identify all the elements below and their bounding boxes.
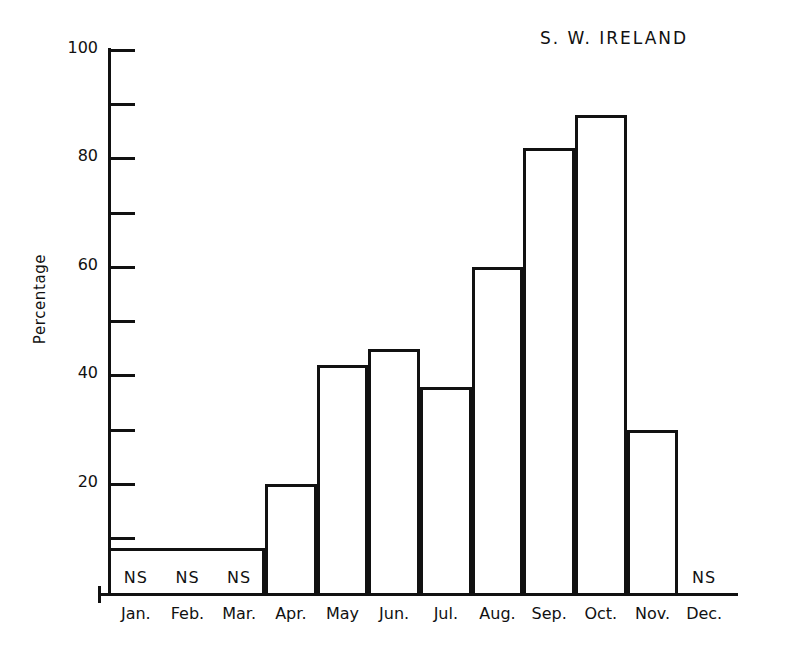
plot-area: 100 80 60 40 20 NS NS NS [110,50,730,593]
bar-apr[interactable] [265,484,317,593]
bar-may[interactable] [317,365,369,593]
x-tick-label-may: May [317,604,369,623]
y-tick-label-100: 100 [67,38,98,57]
x-tick-label-jul: Jul. [420,604,472,623]
x-axis-tick-labels: Jan. Feb. Mar. Apr. May Jun. Jul. Aug. S… [110,604,730,634]
bar-chart-figure: S. W. IRELAND Percentage 100 80 60 40 20 [0,0,792,662]
x-tick-label-nov: Nov. [627,604,679,623]
x-tick-label-aug: Aug. [472,604,524,623]
x-tick-label-feb: Feb. [162,604,214,623]
x-tick-label-apr: Apr. [265,604,317,623]
bar-aug[interactable] [472,267,524,593]
x-tick-label-dec: Dec. [678,604,730,623]
y-tick-label-80: 80 [78,146,98,165]
x-tick-label-jun: Jun. [368,604,420,623]
bar-sep[interactable] [523,148,575,593]
x-tick-label-oct: Oct. [575,604,627,623]
ns-label-mar: NS [213,568,265,587]
x-axis-line [98,593,738,596]
y-tick-label-40: 40 [78,363,98,382]
y-tick-label-60: 60 [78,255,98,274]
ns-label-dec: NS [678,568,730,587]
ns-label-feb: NS [162,568,214,587]
y-tick-label-20: 20 [78,472,98,491]
bar-nov[interactable] [627,430,679,593]
chart-title: S. W. IRELAND [540,28,780,48]
bar-jul[interactable] [420,387,472,593]
ns-label-jan: NS [110,568,162,587]
x-tick-label-mar: Mar. [213,604,265,623]
bar-oct[interactable] [575,115,627,593]
y-axis-label: Percentage [31,229,49,369]
x-tick-label-sep: Sep. [523,604,575,623]
bar-jun[interactable] [368,349,420,593]
bar-series: NS NS NS NS [110,50,730,593]
x-axis-left-cap [98,586,101,603]
ns-strip-top-edge [110,548,265,551]
x-tick-label-jan: Jan. [110,604,162,623]
